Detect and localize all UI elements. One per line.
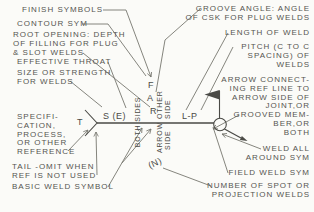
label-groove-angle: GROOVE ANGLE: ANGLE OF CSK FOR PLUG WELD… <box>185 5 310 23</box>
label-line: BOTH <box>221 129 310 138</box>
arrow-side-label-1: ARROW <box>156 122 163 153</box>
finish-field: F <box>148 80 154 90</box>
tail-symbol <box>85 110 97 136</box>
label-line: REFERENCE <box>17 148 75 157</box>
label-number-of-spot: NUMBER OF SPOT OR PROJECTION WELDS <box>207 182 310 200</box>
label-size-or-strength: SIZE OR STRENGTH FOR WELDS <box>17 69 111 87</box>
label-line: FIELD WELD SYM <box>228 169 310 178</box>
label-line: FOR WELDS <box>17 78 111 87</box>
label-line: WELDS <box>241 61 310 70</box>
leader-number-of-spot <box>163 168 211 186</box>
label-weld-all-around: WELD ALL AROUND SYM <box>246 145 310 163</box>
label-line: FINISH SYMBOLS <box>22 6 103 15</box>
label-contour-sym: CONTOUR SYM <box>17 20 88 29</box>
label-length-of-weld: LENGTH OF WELD <box>225 29 310 38</box>
length-pitch-field: L-P <box>182 111 198 121</box>
label-line: AROUND SYM <box>246 154 310 163</box>
label-pitch: PITCH (C TO C SPACING) OF WELDS <box>241 43 310 69</box>
other-side-label-1: OTHER <box>156 91 163 120</box>
label-line: PROJECTION WELDS <box>207 191 310 200</box>
groove-angle-field: A <box>147 93 154 103</box>
label-root-opening: ROOT OPENING: DEPTH OF FILLING FOR PLUG … <box>13 31 126 57</box>
other-side-label-2: SIDE <box>164 99 171 119</box>
size-strength-field: S (E) <box>103 111 126 121</box>
label-field-weld-sym: FIELD WELD SYM <box>228 169 310 178</box>
label-effective-throat: EFFECTIVE THROAT <box>17 58 111 67</box>
label-line: LENGTH OF WELD <box>225 29 310 38</box>
label-line: CONTOUR SYM <box>17 20 88 29</box>
label-line: EFFECTIVE THROAT <box>17 58 111 67</box>
label-specification: SPECIFI- CATION, PROCESS, OR OTHER REFER… <box>17 113 75 157</box>
welding-symbol-diagram: T S (E) F A R L-P (N) BOTH SIDES OTHER S… <box>0 0 314 212</box>
tail-letter: T <box>77 117 83 127</box>
number-field: (N) <box>147 156 164 171</box>
arrow-side-label-2: SIDE <box>164 130 171 150</box>
label-finish-symbols: FINISH SYMBOLS <box>22 6 103 15</box>
label-arrow-connecting: ARROW CONNECT- ING REF LINE TO ARROW SID… <box>221 76 310 138</box>
label-line: OF CSK FOR PLUG WELDS <box>185 14 310 23</box>
both-sides-label: BOTH SIDES <box>134 97 141 147</box>
label-basic-weld-symbol: BASIC WELD SYMBOL <box>12 183 114 192</box>
label-line: BASIC WELD SYMBOL <box>12 183 114 192</box>
label-tail-omit: TAIL -OMIT WHEN REF IS NOT USED <box>12 163 96 181</box>
label-line: REF IS NOT USED <box>12 172 96 181</box>
